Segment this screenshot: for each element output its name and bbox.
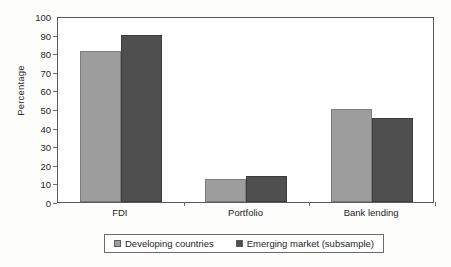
legend-label: Emerging market (subsample) — [247, 238, 374, 249]
legend-swatch-icon — [114, 240, 121, 247]
bar — [372, 118, 413, 202]
y-axis-tick-label: 100 — [21, 12, 51, 23]
y-axis-tick-label: 50 — [21, 105, 51, 116]
bar — [80, 51, 121, 202]
plot-area — [57, 17, 434, 203]
x-axis-category-label: Bank lending — [344, 207, 399, 218]
x-axis-category-label: Portfolio — [228, 207, 263, 218]
y-axis-tick-label: 30 — [21, 142, 51, 153]
y-axis-tick-label: 20 — [21, 160, 51, 171]
chart-figure: Percentage 0102030405060708090100 FDIPor… — [0, 0, 451, 267]
plot-inner — [58, 18, 433, 202]
y-axis-tick-label: 80 — [21, 49, 51, 60]
legend-label: Developing countries — [125, 238, 214, 249]
bar — [246, 176, 287, 202]
y-axis-tick-label: 0 — [21, 198, 51, 209]
bar — [331, 109, 372, 202]
legend-item: Developing countries — [114, 238, 214, 249]
y-axis-tick-label: 70 — [21, 67, 51, 78]
x-axis-tick-mark — [435, 202, 436, 206]
x-axis-category-label: FDI — [112, 207, 127, 218]
x-axis-tick-mark — [184, 202, 185, 206]
bar-group — [184, 18, 310, 202]
y-axis-tick-label: 90 — [21, 30, 51, 41]
bar — [205, 179, 246, 202]
bar-group — [309, 18, 435, 202]
bar-group — [58, 18, 184, 202]
legend-swatch-icon — [236, 240, 243, 247]
x-axis-tick-mark — [309, 202, 310, 206]
y-axis-tick-label: 60 — [21, 86, 51, 97]
y-axis-tick-label: 40 — [21, 123, 51, 134]
bar — [121, 35, 162, 202]
y-axis-tick-label: 10 — [21, 179, 51, 190]
chart-legend: Developing countriesEmerging market (sub… — [104, 234, 384, 253]
y-axis-tick-mark — [53, 203, 57, 204]
legend-item: Emerging market (subsample) — [236, 238, 374, 249]
